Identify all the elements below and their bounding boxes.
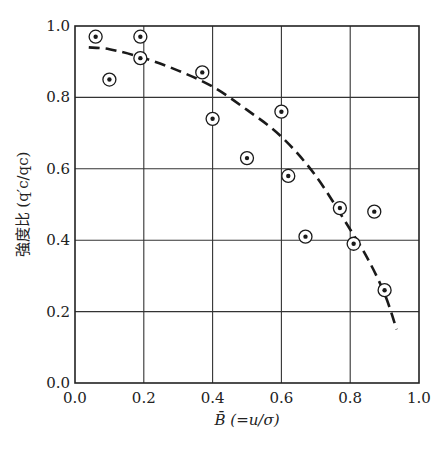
y-tick-label: 0.6 — [46, 160, 70, 178]
data-points — [89, 30, 391, 296]
x-tick-label: 0.4 — [201, 389, 225, 407]
x-tick-label: 0.6 — [269, 389, 293, 407]
data-point-marker — [196, 66, 209, 79]
x-tick-label: 0.8 — [338, 389, 362, 407]
x-tick-label: 0.2 — [132, 389, 156, 407]
x-tick-label: 1.0 — [407, 389, 431, 407]
y-axis-ticks: 0.00.20.40.60.81.0 — [46, 17, 70, 392]
data-point-marker — [206, 112, 219, 125]
data-point-marker — [89, 30, 102, 43]
y-axis-label: 強度比 (q′c/qc) — [14, 152, 32, 258]
y-tick-label: 1.0 — [46, 17, 70, 35]
plot-frame — [75, 26, 419, 383]
data-point-marker — [134, 30, 147, 43]
y-tick-label: 0.2 — [46, 303, 70, 321]
chart: 0.00.20.40.60.81.0 0.00.20.40.60.81.0 B̄… — [0, 0, 445, 451]
grid-lines — [75, 26, 419, 383]
y-tick-label: 0.0 — [46, 374, 70, 392]
x-axis-label: B̄ (=u/σ) — [213, 411, 279, 429]
data-point-marker — [368, 205, 381, 218]
data-point-marker — [103, 73, 116, 86]
data-point-marker — [275, 105, 288, 118]
data-point-marker — [299, 230, 312, 243]
data-point-marker — [134, 52, 147, 65]
y-tick-label: 0.4 — [46, 231, 70, 249]
data-point-marker — [378, 284, 391, 297]
data-point-marker — [347, 237, 360, 250]
data-point-marker — [333, 202, 346, 215]
x-axis-ticks: 0.00.20.40.60.81.0 — [63, 389, 431, 407]
data-point-marker — [241, 152, 254, 165]
y-tick-label: 0.8 — [46, 88, 70, 106]
data-point-marker — [282, 169, 295, 182]
